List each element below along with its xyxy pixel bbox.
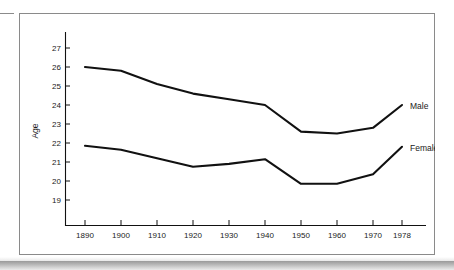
x-axis-tick-labels: 1890 1900 1910 1920 1930 1940 1950 1960 … — [76, 231, 411, 240]
figure-root: 27 26 25 24 23 22 21 20 19 1890 1900 191… — [0, 0, 454, 270]
series-label-female: Female — [410, 143, 435, 153]
y-tick-label-24: 24 — [52, 101, 61, 110]
x-tick-label-1950: 1950 — [292, 231, 310, 240]
y-tick-label-26: 26 — [52, 63, 61, 72]
y-tick-label-20: 20 — [52, 177, 61, 186]
x-tick-label-1920: 1920 — [184, 231, 202, 240]
y-axis-title: Age — [30, 123, 40, 138]
line-chart: 27 26 25 24 23 22 21 20 19 1890 1900 191… — [19, 13, 435, 255]
x-tick-label-1970: 1970 — [364, 231, 382, 240]
y-tick-label-23: 23 — [52, 120, 61, 129]
series-line-female — [85, 146, 402, 184]
series-label-male: Male — [410, 101, 429, 111]
x-tick-label-1900: 1900 — [112, 231, 130, 240]
y-axis-ticks — [66, 48, 71, 200]
x-tick-label-1960: 1960 — [328, 231, 346, 240]
y-axis-tick-labels: 27 26 25 24 23 22 21 20 19 — [52, 44, 61, 205]
series-line-male — [85, 67, 402, 134]
y-tick-label-27: 27 — [52, 44, 61, 53]
x-tick-label-1930: 1930 — [220, 231, 238, 240]
top-left-rule — [0, 13, 14, 14]
y-tick-label-25: 25 — [52, 82, 61, 91]
bottom-decorative-band — [0, 261, 454, 270]
y-tick-label-22: 22 — [52, 139, 61, 148]
x-tick-label-1978: 1978 — [393, 231, 411, 240]
y-tick-label-19: 19 — [52, 196, 61, 205]
x-tick-label-1910: 1910 — [148, 231, 166, 240]
x-tick-label-1890: 1890 — [76, 231, 94, 240]
x-axis-ticks — [85, 220, 402, 226]
x-tick-label-1940: 1940 — [256, 231, 274, 240]
y-tick-label-21: 21 — [52, 158, 61, 167]
